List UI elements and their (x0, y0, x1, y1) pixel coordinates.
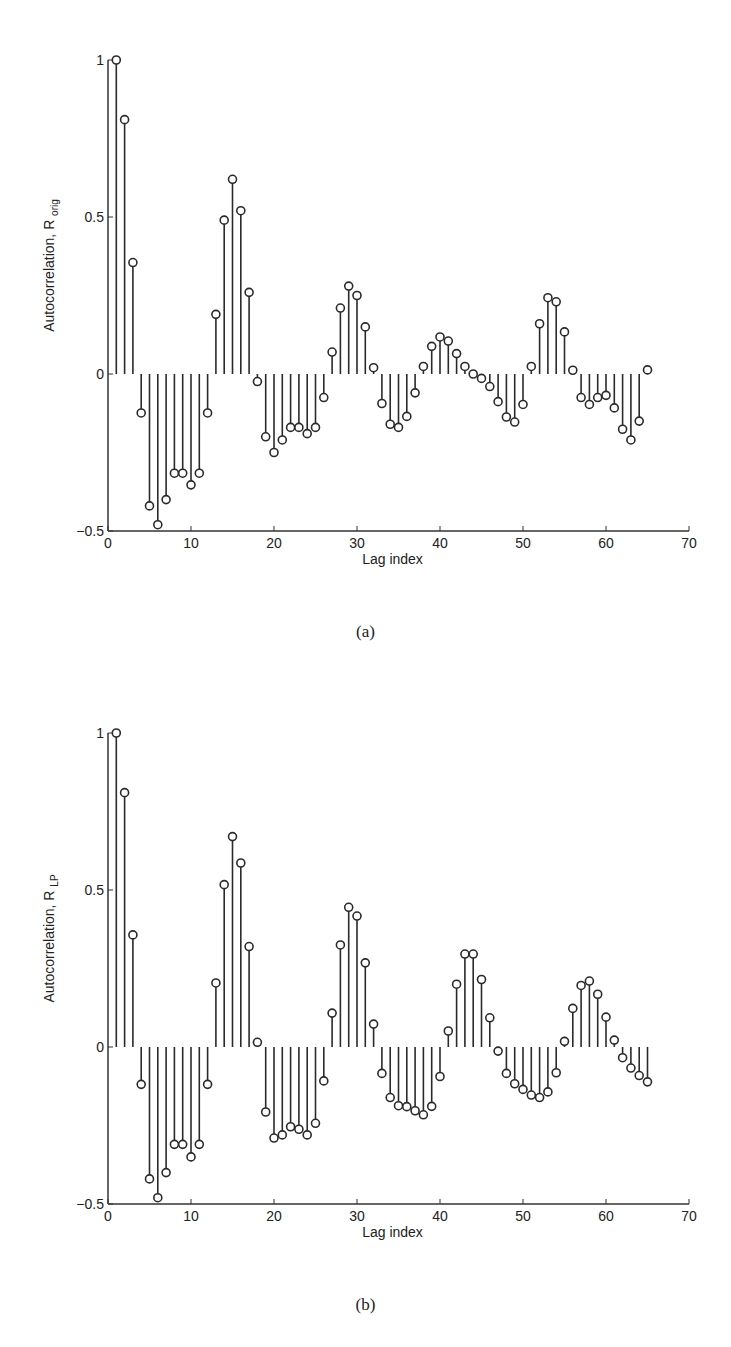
stem-marker (262, 433, 270, 441)
stem-marker (295, 423, 303, 431)
stem-plot-a: 010203040506070−0.500.51Lag indexAutocor… (0, 0, 731, 673)
stem-marker (253, 1038, 261, 1046)
stem-marker (295, 1125, 303, 1133)
stem-marker (511, 1080, 519, 1088)
stem-marker (444, 1027, 452, 1035)
stem-marker (411, 1107, 419, 1115)
stem-marker (419, 362, 427, 370)
stem-marker (129, 931, 137, 939)
stem-marker (585, 977, 593, 985)
stem-marker (179, 1140, 187, 1148)
stem-marker (486, 1014, 494, 1022)
y-tick-label: 1 (96, 52, 104, 68)
stem-marker (270, 1134, 278, 1142)
stem-marker (204, 409, 212, 417)
stem-marker (502, 1069, 510, 1077)
stem-marker (229, 833, 237, 841)
stem-marker (245, 943, 253, 951)
stem-marker (253, 378, 261, 386)
x-tick-label: 20 (266, 535, 282, 551)
stem-marker (378, 400, 386, 408)
stem-marker (569, 366, 577, 374)
stem-marker (229, 175, 237, 183)
stem-marker (146, 502, 154, 510)
stem-marker (428, 1102, 436, 1110)
stem-marker (569, 1004, 577, 1012)
y-tick-label: 0.5 (85, 209, 105, 225)
stem-marker (262, 1108, 270, 1116)
stem-marker (411, 389, 419, 397)
stem-marker (154, 521, 162, 529)
stem-marker (278, 1131, 286, 1139)
stem-marker (436, 333, 444, 341)
x-tick-label: 10 (183, 535, 199, 551)
stem-marker (635, 1072, 643, 1080)
stem-marker (278, 436, 286, 444)
stem-marker (170, 469, 178, 477)
stem-marker (544, 294, 552, 302)
stem-marker (320, 1077, 328, 1085)
stem-marker (237, 207, 245, 215)
y-tick-label: 0.5 (85, 882, 105, 898)
stem-marker (336, 941, 344, 949)
stem-marker (370, 364, 378, 372)
stem-marker (619, 425, 627, 433)
stem-marker (121, 116, 129, 124)
y-tick-label: 0 (96, 1039, 104, 1055)
stem-marker (187, 481, 195, 489)
stem-marker (154, 1194, 162, 1202)
stem-marker (527, 1091, 535, 1099)
stem-marker (436, 1073, 444, 1081)
stem-marker (610, 404, 618, 412)
x-tick-label: 0 (104, 535, 112, 551)
stem-marker (121, 789, 129, 797)
stem-marker (644, 366, 652, 374)
stem-marker (212, 310, 220, 318)
stem-marker (361, 959, 369, 967)
stem-marker (303, 430, 311, 438)
stem-marker (577, 394, 585, 402)
x-tick-label: 30 (349, 1208, 365, 1224)
stem-marker (112, 56, 120, 64)
stem-marker (386, 420, 394, 428)
stem-marker (602, 1013, 610, 1021)
stem-plot-b: 010203040506070−0.500.51Lag indexAutocor… (0, 673, 731, 1347)
x-tick-label: 60 (598, 1208, 614, 1224)
stem-marker (619, 1054, 627, 1062)
y-tick-label: −0.5 (76, 523, 104, 539)
x-tick-label: 10 (183, 1208, 199, 1224)
stem-marker (585, 400, 593, 408)
stem-marker (162, 496, 170, 504)
stem-marker (536, 1094, 544, 1102)
stem-marker (146, 1175, 154, 1183)
x-tick-label: 60 (598, 535, 614, 551)
stem-marker (469, 950, 477, 958)
stem-marker (610, 1036, 618, 1044)
stem-marker (635, 417, 643, 425)
x-tick-label: 30 (349, 535, 365, 551)
stem-marker (353, 292, 361, 300)
stem-marker (403, 412, 411, 420)
stem-marker (527, 362, 535, 370)
stem-marker (561, 1037, 569, 1045)
stem-marker (519, 400, 527, 408)
stem-marker (179, 469, 187, 477)
stem-marker (453, 350, 461, 358)
stem-marker (345, 903, 353, 911)
stem-marker (386, 1094, 394, 1102)
x-tick-label: 20 (266, 1208, 282, 1224)
stem-marker (237, 859, 245, 867)
caption-b: (b) (0, 1295, 731, 1315)
stem-marker (312, 1119, 320, 1127)
stem-marker (312, 423, 320, 431)
stem-marker (461, 362, 469, 370)
stem-marker (552, 1069, 560, 1077)
stem-marker (345, 282, 353, 290)
y-axis-label-subscript: LP (49, 874, 60, 887)
stem-marker (328, 1009, 336, 1017)
stem-marker (486, 383, 494, 391)
stem-marker (594, 990, 602, 998)
stem-marker (519, 1085, 527, 1093)
stem-marker (395, 423, 403, 431)
figure-panel-a: 010203040506070−0.500.51Lag indexAutocor… (0, 0, 731, 673)
